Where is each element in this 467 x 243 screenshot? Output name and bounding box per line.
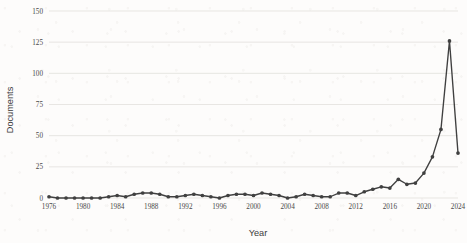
- y-tick-label-0: 0: [39, 195, 43, 203]
- gridlines-group: [49, 11, 458, 198]
- y-tick-label-50: 50: [36, 132, 44, 140]
- data-point-1978: [64, 196, 68, 200]
- data-point-1990: [166, 195, 170, 199]
- y-tick-label-150: 150: [32, 8, 43, 16]
- x-tick-label-1976: 1976: [42, 203, 57, 211]
- data-point-2021: [431, 155, 435, 159]
- series-line-documents: [49, 41, 458, 198]
- data-point-1996: [218, 196, 222, 200]
- data-point-1977: [56, 196, 60, 200]
- data-point-2012: [354, 194, 358, 198]
- data-point-1991: [175, 195, 179, 199]
- data-point-2001: [260, 191, 264, 195]
- data-point-1986: [132, 192, 136, 196]
- y-tick-label-100: 100: [32, 70, 43, 78]
- data-point-2010: [337, 191, 341, 195]
- data-point-2020: [422, 171, 426, 175]
- data-point-2002: [269, 192, 273, 196]
- data-point-1989: [158, 192, 162, 196]
- data-point-2007: [311, 194, 315, 198]
- y-tick-label-25: 25: [36, 163, 44, 171]
- data-point-1983: [107, 195, 111, 199]
- x-tick-label-2008: 2008: [314, 203, 329, 211]
- data-point-2014: [371, 187, 375, 191]
- x-tick-label-2020: 2020: [417, 203, 432, 211]
- data-point-2018: [405, 182, 409, 186]
- data-point-2000: [252, 194, 256, 198]
- x-tick-label-1980: 1980: [76, 203, 91, 211]
- chart-plot-area: 0255075100125150 19761980198419881992199…: [0, 0, 467, 243]
- data-point-2017: [397, 177, 401, 181]
- series-markers-documents: [47, 39, 460, 200]
- x-tick-label-2016: 2016: [383, 203, 398, 211]
- data-point-2009: [328, 195, 332, 199]
- x-tick-label-1984: 1984: [110, 203, 125, 211]
- x-axis-title: Year: [249, 228, 268, 238]
- documents-per-year-line-chart: 0255075100125150 19761980198419881992199…: [0, 0, 467, 243]
- data-point-1984: [115, 194, 119, 198]
- data-point-1993: [192, 192, 196, 196]
- data-point-2015: [379, 185, 383, 189]
- data-point-2004: [286, 196, 290, 200]
- data-point-2013: [362, 190, 366, 194]
- data-point-2006: [303, 192, 307, 196]
- x-tick-label-2000: 2000: [246, 203, 261, 211]
- x-tick-label-1996: 1996: [212, 203, 227, 211]
- data-point-2024: [456, 151, 460, 155]
- y-axis-title: Documents: [5, 86, 15, 133]
- data-point-2003: [277, 194, 281, 198]
- data-point-1980: [81, 196, 85, 200]
- y-axis-tick-labels: 0255075100125150: [32, 8, 43, 203]
- data-point-2008: [320, 195, 324, 199]
- data-point-1992: [183, 194, 187, 198]
- x-tick-label-1992: 1992: [178, 203, 193, 211]
- data-point-1985: [124, 195, 128, 199]
- x-tick-label-1988: 1988: [144, 203, 159, 211]
- data-point-2019: [414, 181, 418, 185]
- data-point-1994: [201, 194, 205, 198]
- x-tick-label-2012: 2012: [349, 203, 364, 211]
- y-tick-label-75: 75: [36, 101, 44, 109]
- data-point-1998: [235, 192, 239, 196]
- data-point-1981: [90, 196, 94, 200]
- data-point-1976: [47, 195, 51, 199]
- data-point-2005: [294, 195, 298, 199]
- x-axis-tick-labels: 1976198019841988199219962000200420082012…: [42, 203, 466, 211]
- data-point-1987: [141, 191, 145, 195]
- data-point-2023: [448, 39, 452, 43]
- data-point-1988: [149, 191, 153, 195]
- x-tick-label-2004: 2004: [280, 203, 295, 211]
- x-tick-label-2024: 2024: [451, 203, 466, 211]
- data-point-1997: [226, 194, 230, 198]
- data-point-1999: [243, 192, 247, 196]
- data-point-1995: [209, 195, 213, 199]
- data-point-2011: [345, 191, 349, 195]
- data-point-1979: [73, 196, 77, 200]
- data-point-1982: [98, 196, 102, 200]
- data-point-2016: [388, 186, 392, 190]
- y-tick-label-125: 125: [32, 39, 43, 47]
- data-point-2022: [439, 128, 443, 132]
